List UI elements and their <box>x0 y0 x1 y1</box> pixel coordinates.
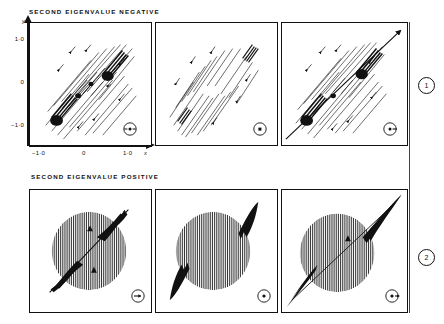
rotation-sense-left-icon <box>130 288 146 304</box>
panel-row1-col1 <box>29 22 152 146</box>
panel-row2-col2 <box>155 189 278 313</box>
rotation-sense-right-icon <box>384 288 400 304</box>
rotation-sense-center-icon <box>256 288 272 304</box>
panel-row2-col1 <box>29 189 152 313</box>
x-tick-label-3: 1·0 <box>123 150 132 156</box>
figure-root: SECOND EIGENVALUE NEGATIVE SECOND EIGENV… <box>0 0 444 324</box>
x-axis-label: x <box>144 150 147 156</box>
panel-row2-col3 <box>281 189 408 313</box>
section-title-positive: SECOND EIGENVALUE POSITIVE <box>31 173 159 180</box>
panel-row1-col2 <box>155 22 278 146</box>
row-badge-2: 2 <box>418 249 435 266</box>
row-badge-1: 1 <box>418 77 435 94</box>
right-vertical-rule <box>409 22 410 313</box>
rotation-sense-right-icon <box>382 121 398 137</box>
rotation-sense-center-icon <box>252 121 268 137</box>
section-title-negative: SECOND EIGENVALUE NEGATIVE <box>29 8 160 15</box>
x-tick-label-2: 0 <box>82 150 86 156</box>
x-tick-label-1: −1·0 <box>32 150 45 156</box>
rotation-sense-left-icon <box>122 121 138 137</box>
panel-row1-col3 <box>281 22 408 146</box>
y-tick-label-2: 0 <box>6 79 24 85</box>
y-tick-label-1: 1·0 <box>6 36 24 42</box>
y-tick-label-3: −1·0 <box>3 122 24 128</box>
